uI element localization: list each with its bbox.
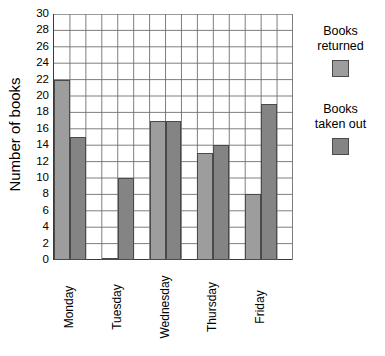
legend-swatch-takenout [332, 138, 349, 155]
x-tick-label-text: Thursday [205, 282, 219, 332]
x-tick-label-monday: Monday [53, 262, 85, 356]
bar-tuesday-returned [102, 258, 118, 260]
x-tick-label-friday: Friday [244, 262, 276, 356]
y-tick-label: 12 [36, 156, 49, 168]
plot-area [53, 14, 292, 260]
bar-wednesday-returned [150, 121, 166, 260]
y-tick-label: 16 [36, 123, 49, 135]
bar-monday-returned [54, 80, 70, 260]
bar-monday-takenout [70, 137, 86, 260]
bar-friday-takenout [261, 104, 277, 260]
x-tick-label-text: Wednesday [158, 275, 172, 338]
y-axis-tick-labels: 024681012141618202224262830 [28, 14, 50, 260]
legend-entry-takenout: Books taken out [296, 102, 385, 155]
y-tick-label: 20 [36, 90, 49, 102]
x-tick-label-text: Friday [253, 290, 267, 323]
x-tick-label-thursday: Thursday [196, 262, 228, 356]
x-tick-label-wednesday: Wednesday [149, 262, 181, 356]
bar-tuesday-takenout [118, 178, 134, 260]
chart-legend: Books returnedBooks taken out [296, 24, 385, 184]
x-tick-label-text: Monday [62, 286, 76, 329]
y-tick-label: 6 [43, 205, 49, 217]
bar-friday-returned [245, 194, 261, 260]
bars-layer [54, 14, 293, 260]
y-axis-title: Number of books [0, 0, 28, 268]
legend-label: Books taken out [296, 102, 385, 131]
bar-chart-figure: Number of books 024681012141618202224262… [0, 0, 385, 356]
x-tick-label-tuesday: Tuesday [101, 262, 133, 356]
y-tick-label: 10 [36, 172, 49, 184]
y-tick-label: 22 [36, 74, 49, 86]
y-tick-label: 2 [43, 238, 49, 250]
y-tick-label: 30 [36, 8, 49, 20]
y-tick-label: 26 [36, 41, 49, 53]
y-tick-label: 18 [36, 107, 49, 119]
bar-thursday-returned [197, 153, 213, 260]
y-tick-label: 8 [43, 189, 49, 201]
y-tick-label: 0 [43, 254, 49, 266]
y-axis-title-text: Number of books [6, 77, 23, 191]
bar-thursday-takenout [213, 145, 229, 260]
y-tick-label: 4 [43, 221, 49, 233]
x-tick-label-text: Tuesday [110, 284, 124, 330]
bar-wednesday-takenout [166, 121, 182, 260]
y-tick-label: 24 [36, 57, 49, 69]
y-tick-label: 14 [36, 139, 49, 151]
legend-label: Books returned [296, 24, 385, 53]
legend-swatch-returned [332, 60, 349, 77]
x-axis-tick-labels: MondayTuesdayWednesdayThursdayFriday [53, 262, 292, 356]
legend-entry-returned: Books returned [296, 24, 385, 77]
y-tick-label: 28 [36, 25, 49, 37]
